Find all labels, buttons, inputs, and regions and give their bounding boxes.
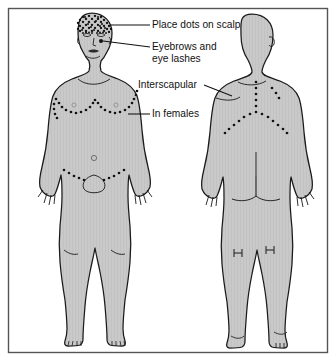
label-interscapular: Interscapular: [138, 79, 197, 90]
label-place-dots-on-scalp: Place dots on scalp: [152, 19, 241, 30]
diagram-root: Place dots on scalp Eyebrows and eye las…: [0, 0, 336, 361]
label-eyebrows-line2: eye lashes: [152, 53, 201, 64]
label-in-females: In females: [152, 108, 199, 119]
body-diagram-svg: Place dots on scalp Eyebrows and eye las…: [0, 0, 336, 361]
label-eyebrows-line1: Eyebrows and: [152, 41, 217, 52]
